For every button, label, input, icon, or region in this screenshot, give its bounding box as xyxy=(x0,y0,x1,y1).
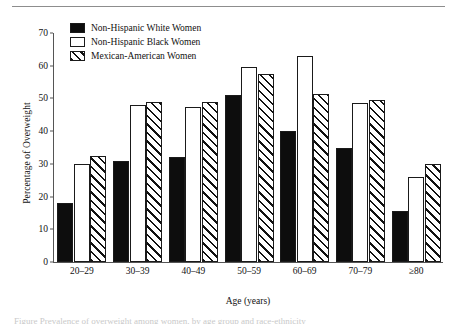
y-axis-title: Percentage of Overweight xyxy=(22,63,32,243)
bar-open xyxy=(408,177,424,262)
x-tick-label: 40–49 xyxy=(181,266,205,276)
bar-group xyxy=(392,33,441,262)
x-tick-label: 20–29 xyxy=(70,266,94,276)
figure-caption-partial: Figure Prevalence of overweight among wo… xyxy=(14,316,444,324)
bar-hatched xyxy=(146,102,162,262)
bar-group xyxy=(280,33,329,262)
bar-open xyxy=(74,164,90,262)
legend-swatch-open xyxy=(70,37,85,47)
bar-open xyxy=(185,107,201,262)
legend-item: Non-Hispanic White Women xyxy=(70,21,201,35)
legend-item: Non-Hispanic Black Women xyxy=(70,35,201,49)
bar-open xyxy=(130,105,146,262)
legend-swatch-solid xyxy=(70,23,85,33)
bar-hatched xyxy=(425,164,441,262)
x-tick-label: 50–59 xyxy=(237,266,261,276)
bar-hatched xyxy=(369,100,385,262)
bar-hatched xyxy=(313,94,329,262)
bar-solid xyxy=(225,95,241,262)
x-tick-label: 70–79 xyxy=(349,266,373,276)
figure-container: Percentage of Overweight 010203040506070… xyxy=(0,0,458,324)
plot-area: 010203040506070 20–2930–3940–4950–5960–6… xyxy=(53,33,443,262)
bar-hatched xyxy=(90,156,106,262)
chart-legend: Non-Hispanic White WomenNon-Hispanic Bla… xyxy=(70,21,201,63)
x-tick-label: 60–69 xyxy=(293,266,317,276)
bar-group xyxy=(225,33,274,262)
bar-series-container xyxy=(53,33,443,262)
x-axis-title: Age (years) xyxy=(53,296,443,306)
x-axis-line xyxy=(53,262,443,263)
legend-swatch-hatched xyxy=(70,51,85,61)
bar-hatched xyxy=(258,74,274,262)
bar-solid xyxy=(336,148,352,263)
bar-group xyxy=(336,33,385,262)
bar-solid xyxy=(392,211,408,262)
x-tick-label: 30–39 xyxy=(126,266,150,276)
bar-open xyxy=(352,103,368,262)
legend-label: Mexican-American Women xyxy=(91,51,196,61)
bar-hatched xyxy=(202,102,218,262)
bar-open xyxy=(297,56,313,262)
bar-group xyxy=(57,33,106,262)
bar-solid xyxy=(280,131,296,262)
legend-item: Mexican-American Women xyxy=(70,49,201,63)
x-tick-label: ≥80 xyxy=(409,266,424,276)
bar-solid xyxy=(169,157,185,262)
legend-label: Non-Hispanic White Women xyxy=(91,23,201,33)
bar-open xyxy=(241,67,257,262)
top-horizontal-rule xyxy=(12,6,445,7)
bar-group xyxy=(169,33,218,262)
bar-solid xyxy=(113,161,129,262)
legend-label: Non-Hispanic Black Women xyxy=(91,37,200,47)
bar-group xyxy=(113,33,162,262)
bar-solid xyxy=(57,203,73,262)
